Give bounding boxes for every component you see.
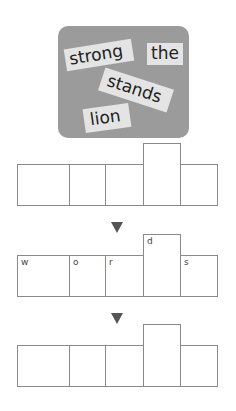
letter-box-5[interactable] [180, 345, 218, 387]
letter-box-3[interactable] [105, 164, 144, 206]
word-card-the: the [147, 43, 183, 65]
letter-box-1[interactable]: w [17, 255, 70, 297]
letter-box-4-tall[interactable] [143, 324, 181, 387]
letter-box-2[interactable] [69, 345, 106, 387]
word-card-lion: lion [83, 103, 132, 133]
word-card-strong: strong [64, 39, 135, 71]
letter-box-1[interactable] [17, 164, 70, 206]
down-arrow-icon [111, 222, 123, 233]
letter-d: d [147, 236, 153, 246]
letter-box-4-tall[interactable] [143, 143, 181, 206]
letter-o: o [73, 257, 79, 267]
letter-box-1[interactable] [17, 345, 70, 387]
letter-box-5[interactable]: s [180, 255, 218, 297]
letter-w: w [21, 257, 28, 267]
letter-box-3[interactable]: r [105, 255, 144, 297]
down-arrow-icon [111, 313, 123, 324]
letter-box-4-tall[interactable]: d [143, 234, 181, 297]
letter-r: r [109, 257, 113, 267]
letter-box-2[interactable] [69, 164, 106, 206]
word-card-board: strong the stands lion [58, 26, 189, 138]
letter-box-5[interactable] [180, 164, 218, 206]
letter-s: s [184, 257, 189, 267]
letter-box-3[interactable] [105, 345, 144, 387]
letter-box-2[interactable]: o [69, 255, 106, 297]
